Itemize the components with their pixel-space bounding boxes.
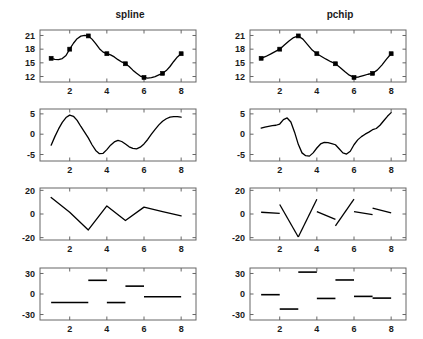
x-tick-label: 4 bbox=[104, 244, 109, 254]
x-tick-label: 8 bbox=[179, 165, 184, 175]
x-tick-label: 8 bbox=[389, 324, 394, 334]
figure-canvas: spline pchip 246812151821246812151821246… bbox=[0, 0, 423, 339]
x-tick-label: 4 bbox=[314, 244, 319, 254]
y-tick-label: 0 bbox=[30, 129, 35, 139]
data-curve bbox=[51, 115, 181, 154]
x-tick-label: 2 bbox=[277, 86, 282, 96]
x-tick-label: 4 bbox=[104, 165, 109, 175]
y-tick-label: 30 bbox=[25, 269, 35, 279]
x-tick-label: 4 bbox=[314, 165, 319, 175]
data-segment bbox=[335, 199, 354, 226]
x-tick-label: 4 bbox=[314, 86, 319, 96]
plot-panel-pchip-d1: 2468-505 bbox=[216, 106, 412, 179]
data-point-marker bbox=[296, 34, 300, 38]
plot-panel-spline-d2: 2468-20020 bbox=[6, 185, 202, 258]
data-point-marker bbox=[179, 52, 183, 56]
plot-panel-spline-value: 246812151821 bbox=[6, 27, 202, 100]
x-tick-label: 8 bbox=[389, 244, 394, 254]
data-segment bbox=[280, 205, 299, 238]
y-tick-label: 15 bbox=[235, 58, 245, 68]
x-tick-label: 4 bbox=[104, 324, 109, 334]
data-point-marker bbox=[105, 52, 109, 56]
y-tick-label: -5 bbox=[237, 150, 245, 160]
y-tick-label: 0 bbox=[240, 209, 245, 219]
data-point-marker bbox=[68, 47, 72, 51]
x-tick-label: 6 bbox=[351, 244, 356, 254]
y-tick-label: -20 bbox=[22, 233, 35, 243]
x-tick-label: 2 bbox=[277, 244, 282, 254]
y-tick-label: 12 bbox=[25, 72, 35, 82]
y-tick-label: 5 bbox=[30, 109, 35, 119]
y-tick-label: 18 bbox=[235, 44, 245, 54]
data-point-marker bbox=[86, 34, 90, 38]
x-tick-label: 4 bbox=[104, 86, 109, 96]
y-tick-label: 0 bbox=[30, 209, 35, 219]
y-tick-label: 20 bbox=[235, 186, 245, 196]
y-tick-label: 0 bbox=[240, 129, 245, 139]
x-tick-label: 2 bbox=[277, 165, 282, 175]
x-tick-label: 6 bbox=[351, 86, 356, 96]
data-point-marker bbox=[49, 56, 53, 60]
plot-panel-pchip-value: 246812151821 bbox=[216, 27, 412, 100]
x-tick-label: 8 bbox=[179, 86, 184, 96]
x-tick-label: 8 bbox=[389, 165, 394, 175]
y-tick-label: 21 bbox=[235, 31, 245, 41]
data-point-marker bbox=[371, 71, 375, 75]
y-tick-label: -30 bbox=[232, 310, 245, 320]
y-tick-label: 0 bbox=[30, 289, 35, 299]
data-segment bbox=[261, 212, 280, 213]
plot-panel-pchip-d2: 2468-20020 bbox=[216, 185, 412, 258]
data-point-marker bbox=[123, 62, 127, 66]
x-tick-label: 2 bbox=[277, 324, 282, 334]
data-point-marker bbox=[259, 56, 263, 60]
y-tick-label: -30 bbox=[22, 310, 35, 320]
x-tick-label: 8 bbox=[179, 324, 184, 334]
data-point-marker bbox=[333, 62, 337, 66]
y-tick-label: 15 bbox=[25, 58, 35, 68]
plot-panel-spline-d3: 2468-30030 bbox=[6, 265, 202, 338]
data-segment bbox=[298, 199, 317, 237]
x-tick-label: 6 bbox=[351, 165, 356, 175]
column-title-pchip: pchip bbox=[270, 9, 410, 20]
x-tick-label: 8 bbox=[389, 86, 394, 96]
y-tick-label: 20 bbox=[25, 186, 35, 196]
x-tick-label: 2 bbox=[67, 244, 72, 254]
data-point-marker bbox=[352, 75, 356, 79]
data-segment bbox=[354, 212, 373, 215]
data-point-marker bbox=[278, 47, 282, 51]
y-tick-label: 21 bbox=[25, 31, 35, 41]
data-point-marker bbox=[161, 71, 165, 75]
x-tick-label: 2 bbox=[67, 324, 72, 334]
x-tick-label: 2 bbox=[67, 165, 72, 175]
x-tick-label: 4 bbox=[314, 324, 319, 334]
x-tick-label: 6 bbox=[141, 244, 146, 254]
x-tick-label: 6 bbox=[351, 324, 356, 334]
data-curve bbox=[261, 113, 391, 156]
plot-panel-pchip-d3: 2468-30030 bbox=[216, 265, 412, 338]
y-tick-label: 18 bbox=[25, 44, 35, 54]
data-segment bbox=[373, 208, 392, 213]
y-tick-label: 0 bbox=[240, 289, 245, 299]
y-tick-label: 5 bbox=[240, 109, 245, 119]
y-tick-label: -5 bbox=[27, 150, 35, 160]
x-tick-label: 6 bbox=[141, 165, 146, 175]
y-tick-label: 30 bbox=[235, 269, 245, 279]
data-point-marker bbox=[142, 75, 146, 79]
y-tick-label: -20 bbox=[232, 233, 245, 243]
column-title-spline: spline bbox=[60, 9, 200, 20]
data-segment bbox=[317, 212, 336, 220]
data-curve bbox=[51, 197, 181, 230]
plot-panel-spline-d1: 2468-505 bbox=[6, 106, 202, 179]
data-point-marker bbox=[389, 52, 393, 56]
x-tick-label: 6 bbox=[141, 324, 146, 334]
x-tick-label: 8 bbox=[179, 244, 184, 254]
data-point-marker bbox=[315, 52, 319, 56]
y-tick-label: 12 bbox=[235, 72, 245, 82]
x-tick-label: 2 bbox=[67, 86, 72, 96]
x-tick-label: 6 bbox=[141, 86, 146, 96]
